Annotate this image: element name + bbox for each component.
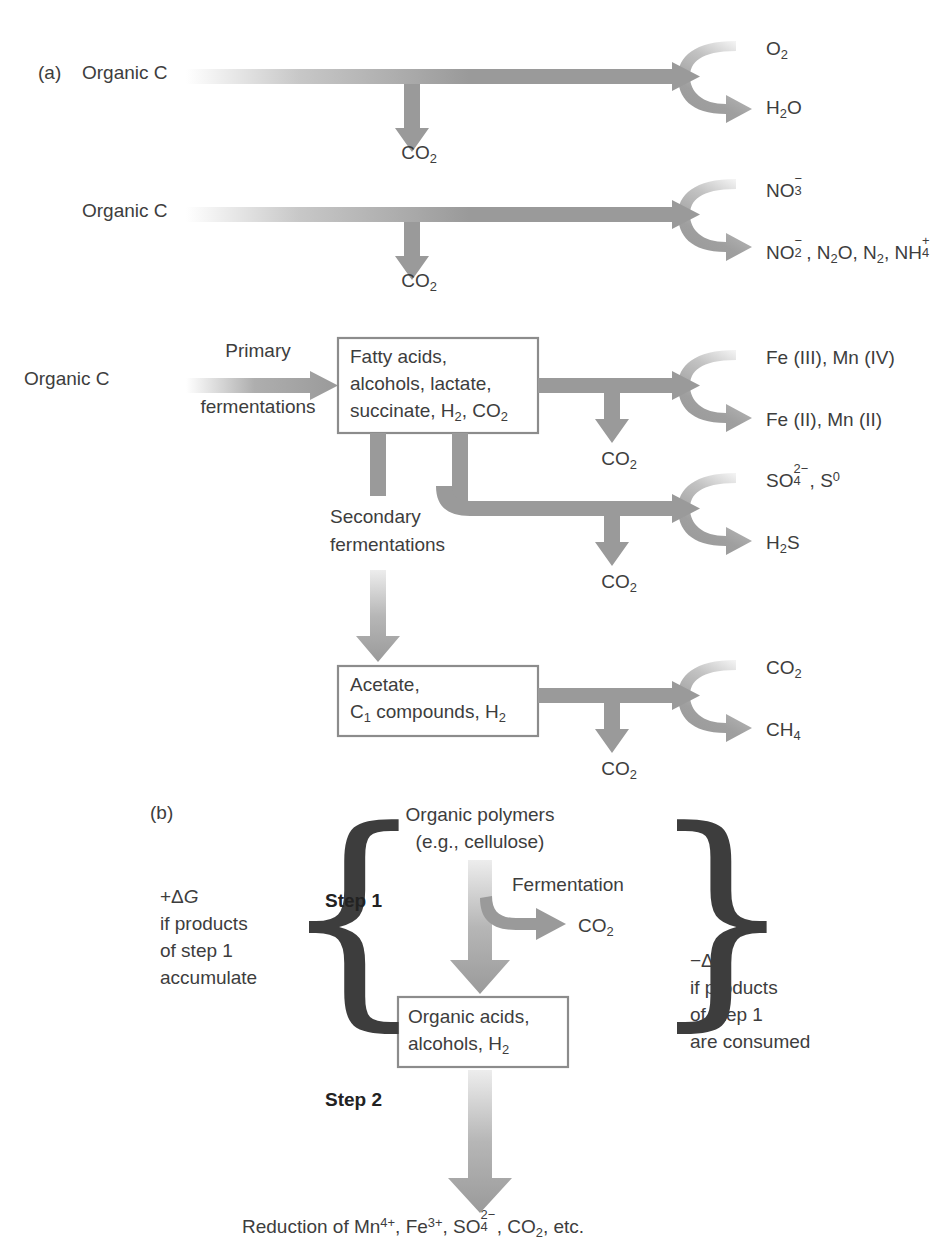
row-methanogenesis-product-label: CH4	[766, 717, 801, 744]
bottom-reduction-label: Reduction of Mn4+, Fe3+, SO2−4, CO2, etc…	[242, 1214, 584, 1241]
arrow-organicC-to-O2	[186, 62, 700, 152]
arrow-secondary-fermentations	[356, 570, 400, 662]
organic-acids-line-1: Organic acids,	[408, 1004, 568, 1031]
row-aerobic-oxidant-label: O2	[766, 36, 788, 63]
right-note-line4: are consumed	[690, 1029, 810, 1055]
row-sulfate-oxidant-label: SO2−4, S0	[766, 468, 840, 494]
step1-label: Step 1	[325, 888, 382, 914]
panel-b-label: (b)	[150, 800, 173, 826]
row-sulfate-product-label: H2S	[766, 530, 800, 557]
arrow-organicC-to-NO3	[186, 200, 700, 280]
panel-a-label: (a)	[38, 60, 61, 86]
primary-fermentations-line2: fermentations	[188, 394, 328, 420]
row-aerobic-source-label: Organic C	[82, 60, 168, 86]
panel-b-co2-label: CO2	[578, 913, 614, 940]
arrow-fattyacids-to-FeMn	[538, 371, 700, 443]
secondary-fermentations-line1: Secondary	[330, 504, 421, 530]
hook-arrow-O2-H2O	[678, 41, 752, 123]
hook-arrow-NO3-to-NO2	[678, 179, 752, 261]
fatty-acids-line-3: succinate, H2, CO2	[350, 398, 536, 426]
arrow-fermentation-co2	[480, 896, 566, 940]
row-nitrate-oxidant-label: NO−3	[766, 178, 806, 204]
left-note-line4: accumulate	[160, 965, 257, 991]
stem-secondary-fermentations-top	[370, 433, 386, 496]
acetate-line-2: C1 compounds, H2	[350, 699, 536, 727]
fatty-acids-line-2: alcohols, lactate,	[350, 371, 536, 398]
row-metal-source-label: Organic C	[24, 366, 110, 392]
left-note-line1: +ΔG	[160, 884, 199, 910]
row-methanogenesis-oxidant-label: CO2	[766, 655, 802, 682]
arrow-step2	[448, 1070, 512, 1213]
organic-acids-line-2: alcohols, H2	[408, 1031, 568, 1059]
row-methanogenesis-byproduct-label: CO2	[601, 756, 637, 783]
row-aerobic-product-label: H2O	[766, 95, 802, 122]
left-note-line3: of step 1	[160, 938, 233, 964]
hook-arrow-CO2-to-CH4	[678, 660, 752, 742]
hook-arrow-SO4-to-H2S	[678, 473, 752, 555]
step2-label: Step 2	[325, 1087, 382, 1113]
organic-polymers-line1: Organic polymers	[330, 802, 630, 828]
row-nitrate-product-label: NO−2, N2O, N2, NH+4	[766, 240, 934, 267]
right-note-line1: −ΔG	[690, 948, 729, 974]
organic-polymers-line2: (e.g., cellulose)	[330, 829, 630, 855]
arrow-sulfate-co2-drop	[595, 516, 629, 566]
primary-fermentations-line1: Primary	[188, 338, 328, 364]
right-note-line3: of step 1	[690, 1002, 763, 1028]
acetate-line-1: Acetate,	[350, 672, 536, 699]
row-nitrate-byproduct-label: CO2	[401, 268, 437, 295]
acetate-box-text: Acetate, C1 compounds, H2	[350, 672, 536, 727]
arrow-acetate-to-CH4	[538, 681, 700, 753]
fatty-acids-line-1: Fatty acids,	[350, 344, 536, 371]
arrow-to-sulfate-elbow	[436, 486, 700, 523]
secondary-fermentations-line2: fermentations	[330, 532, 445, 558]
fatty-acids-box-text: Fatty acids, alcohols, lactate, succinat…	[350, 344, 536, 426]
stem-to-sulfate-vertical	[452, 433, 468, 501]
hook-arrow-FeIII-to-FeII	[678, 350, 752, 432]
figure-canvas: (a) Organic C CO2 O2 H2O Organic C CO2 N…	[0, 0, 943, 1257]
row-nitrate-source-label: Organic C	[82, 198, 168, 224]
organic-acids-box-text: Organic acids, alcohols, H2	[408, 1004, 568, 1059]
fermentation-label: Fermentation	[512, 872, 624, 898]
row-metal-product-label: Fe (II), Mn (II)	[766, 407, 882, 433]
row-sulfate-byproduct-label: CO2	[601, 569, 637, 596]
row-metal-oxidant-label: Fe (III), Mn (IV)	[766, 345, 895, 371]
right-note-line2: if products	[690, 975, 778, 1001]
row-metal-byproduct-label: CO2	[601, 446, 637, 473]
row-aerobic-byproduct-label: CO2	[401, 140, 437, 167]
left-note-line2: if products	[160, 911, 248, 937]
